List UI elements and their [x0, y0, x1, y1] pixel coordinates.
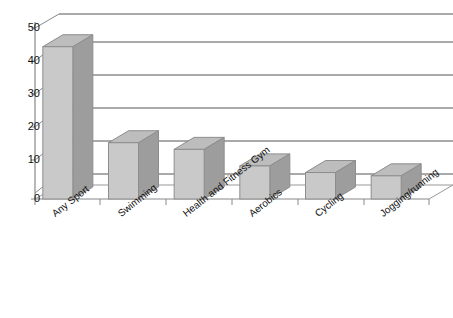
bar-chart: 50 40 30 20 10 0 Any SportSwimmingHealth…	[0, 0, 453, 318]
x-label-5: Cycling	[312, 190, 345, 219]
x-label-2: Swimming	[115, 182, 158, 219]
plot-area: 50 40 30 20 10 0 Any SportSwimmingHealth…	[0, 0, 453, 318]
x-label-1: Any Sport	[49, 183, 90, 219]
x-label-6: Jogging/running	[378, 166, 441, 218]
x-axis-category-labels: Any SportSwimmingHealth and Fitness GymA…	[0, 0, 453, 318]
x-label-4: Aerobics	[246, 186, 283, 219]
